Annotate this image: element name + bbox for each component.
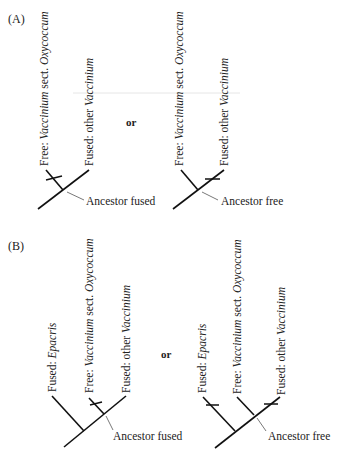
taxon-label: Fused: other Vaccinium [218, 58, 230, 166]
taxon-label: Fused: Epacris [46, 322, 59, 392]
ancestor-label: Ancestor free [221, 195, 283, 207]
panel-label-a: (A) [8, 12, 25, 26]
taxon-label: Fused: other Vaccinium [275, 287, 287, 395]
ancestor-pointer [106, 416, 113, 430]
tree-branch [89, 398, 104, 414]
tree-a-left: Free: Vaccinium sect. Oxycoccum Fused: o… [38, 11, 156, 209]
tree-branch [203, 397, 235, 431]
taxon-label: Free: Vaccinium sect. Oxycoccum [38, 11, 51, 166]
tree-branch [52, 396, 84, 431]
ancestor-pointer [257, 418, 266, 431]
tree-branch [237, 397, 254, 415]
ancestor-pointer [67, 192, 84, 200]
tree-a-right: Free: Vaccinium sect. Oxycoccum Fused: o… [173, 11, 283, 209]
taxon-label: Free: Vaccinium sect. Oxycoccum [231, 239, 244, 394]
taxon-label: Fused: other Vaccinium [120, 285, 132, 393]
ancestor-label: Ancestor free [268, 430, 330, 442]
taxon-label: Free: Vaccinium sect. Oxycoccum [173, 11, 186, 166]
tree-b-right: Fused: Epacris Free: Vaccinium sect. Oxy… [196, 239, 330, 448]
ancestor-label: Ancestor fused [113, 430, 183, 442]
or-label-a: or [126, 116, 137, 128]
ancestor-pointer [202, 192, 218, 200]
panel-a: (A) or Free: Vaccinium sect. Oxycoccum F… [8, 11, 283, 209]
ancestor-label: Ancestor fused [86, 195, 156, 207]
or-label-b: or [161, 348, 172, 360]
tree-b-left: Fused: Epacris Free: Vaccinium sect. Oxy… [46, 238, 183, 447]
taxon-label: Free: Vaccinium sect. Oxycoccum [83, 238, 96, 393]
panel-label-b: (B) [8, 239, 24, 253]
taxon-label: Fused: Epacris [196, 323, 209, 393]
phylogeny-figure: (A) or Free: Vaccinium sect. Oxycoccum F… [0, 0, 341, 463]
tree-branch [181, 170, 198, 190]
taxon-label: Fused: other Vaccinium [83, 58, 95, 166]
